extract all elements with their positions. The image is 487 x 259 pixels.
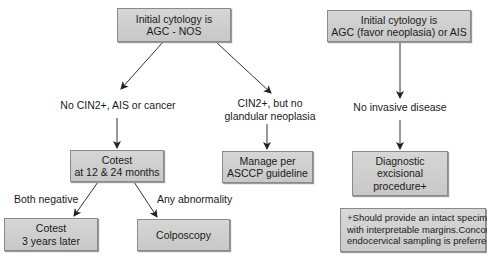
start-agc-nos-line2: AGC - NOS — [147, 25, 202, 38]
start-right-line1: Initial cytology is — [361, 14, 437, 27]
both-negative-label: Both negative — [14, 193, 78, 206]
excisional-line2: excisional — [377, 167, 423, 180]
diagnostic-excisional-box: Diagnostic excisional procedure+ — [352, 151, 448, 196]
excisional-line1: Diagnostic — [375, 155, 424, 168]
start-agc-nos-line1: Initial cytology is — [136, 13, 212, 26]
no-cin2-ais-cancer-label: No CIN2+, AIS or cancer — [58, 99, 178, 112]
manage-line2: ASCCP guideline — [227, 167, 308, 180]
start-right-line2: AGC (favor neoplasia) or AIS — [331, 26, 466, 39]
footnote-line1: +Should provide an intact specimen — [347, 212, 479, 224]
start-agc-nos-box: Initial cytology is AGC - NOS — [117, 8, 231, 42]
cin2-no-glandular-label: CIN2+, but no glandular neoplasia — [215, 97, 325, 122]
any-abnormality-label: Any abnormality — [157, 193, 232, 206]
cotest-3-years-box: Cotest 3 years later — [4, 218, 98, 251]
arrow-to-cin2 — [216, 42, 271, 93]
colposcopy-text: Colposcopy — [156, 229, 211, 242]
cotest-later-line2: 3 years later — [22, 235, 80, 248]
no-invasive-disease-label: No invasive disease — [345, 101, 455, 114]
cotest-later-line1: Cotest — [36, 222, 66, 235]
footnote-box: +Should provide an intact specimen with … — [340, 208, 486, 252]
cotest-line1: Cotest — [102, 154, 132, 167]
footnote-line3: endocervical sampling is preferred — [347, 235, 479, 247]
start-agc-favor-neoplasia-box: Initial cytology is AGC (favor neoplasia… — [327, 10, 471, 42]
arrow-to-colposcopy — [134, 182, 157, 217]
colposcopy-box: Colposcopy — [137, 219, 230, 251]
excisional-line3: procedure+ — [373, 180, 426, 193]
manage-line1: Manage per — [239, 155, 295, 168]
footnote-line2: with interpretable margins.Concomitant — [347, 224, 479, 236]
cin2-label-line1: CIN2+, but no — [215, 97, 325, 110]
cotest-12-24-box: Cotest at 12 & 24 months — [70, 150, 164, 182]
cin2-label-line2: glandular neoplasia — [215, 110, 325, 123]
cotest-line2: at 12 & 24 months — [74, 166, 159, 179]
manage-asccp-box: Manage per ASCCP guideline — [222, 151, 313, 183]
arrow-to-no-cin2 — [121, 42, 163, 89]
